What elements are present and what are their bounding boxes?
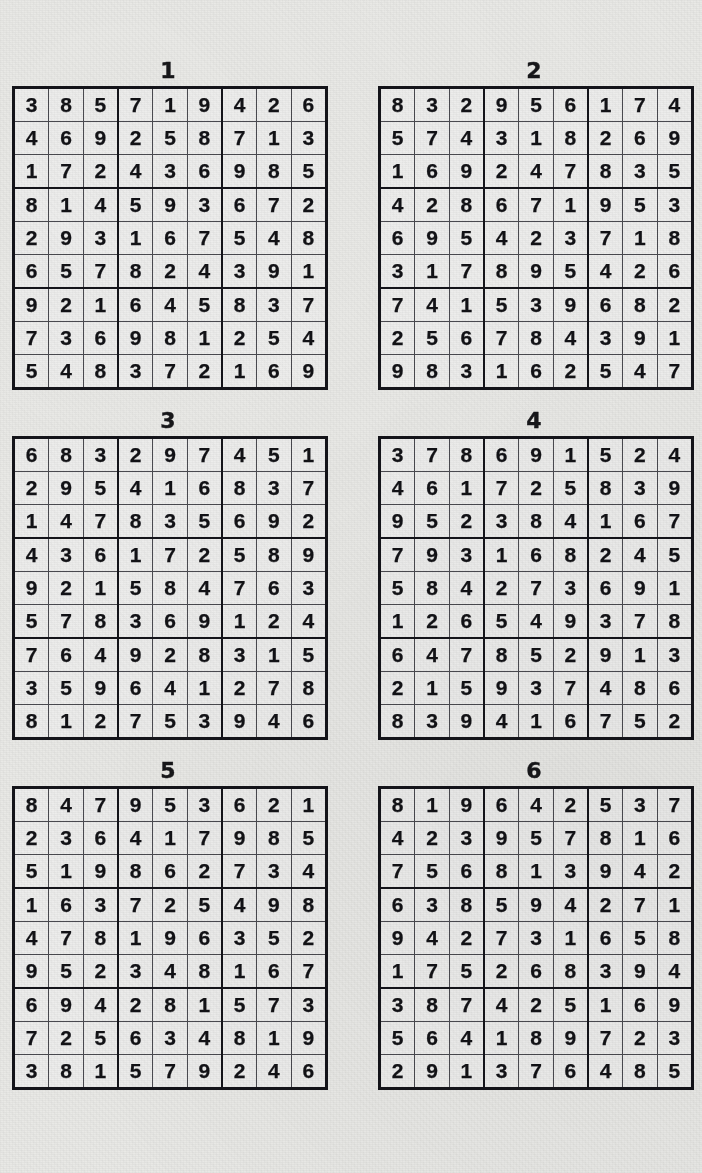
sudoku-cell[interactable]: 2 <box>623 1022 657 1055</box>
sudoku-cell[interactable]: 1 <box>553 188 588 222</box>
sudoku-cell[interactable]: 1 <box>449 288 484 322</box>
sudoku-cell[interactable]: 9 <box>449 155 484 189</box>
sudoku-cell[interactable]: 7 <box>291 955 326 989</box>
sudoku-cell[interactable]: 5 <box>83 88 118 122</box>
sudoku-cell[interactable]: 9 <box>118 322 153 355</box>
sudoku-cell[interactable]: 7 <box>588 705 623 739</box>
sudoku-cell[interactable]: 2 <box>449 505 484 539</box>
sudoku-cell[interactable]: 4 <box>257 222 291 255</box>
sudoku-cell[interactable]: 8 <box>484 855 519 889</box>
sudoku-cell[interactable]: 2 <box>257 88 291 122</box>
sudoku-cell[interactable]: 9 <box>187 88 222 122</box>
sudoku-cell[interactable]: 3 <box>49 822 83 855</box>
sudoku-cell[interactable]: 4 <box>484 222 519 255</box>
sudoku-cell[interactable]: 6 <box>380 638 415 672</box>
sudoku-cell[interactable]: 2 <box>415 188 449 222</box>
sudoku-cell[interactable]: 5 <box>222 222 257 255</box>
sudoku-cell[interactable]: 5 <box>657 155 692 189</box>
sudoku-cell[interactable]: 2 <box>588 538 623 572</box>
sudoku-cell[interactable]: 2 <box>484 572 519 605</box>
sudoku-cell[interactable]: 1 <box>623 222 657 255</box>
sudoku-cell[interactable]: 6 <box>657 255 692 289</box>
sudoku-cell[interactable]: 8 <box>49 1055 83 1089</box>
sudoku-cell[interactable]: 4 <box>49 505 83 539</box>
sudoku-cell[interactable]: 6 <box>623 988 657 1022</box>
sudoku-cell[interactable]: 3 <box>380 438 415 472</box>
sudoku-cell[interactable]: 4 <box>415 638 449 672</box>
sudoku-cell[interactable]: 8 <box>257 538 291 572</box>
sudoku-cell[interactable]: 6 <box>484 788 519 822</box>
sudoku-cell[interactable]: 7 <box>83 788 118 822</box>
sudoku-cell[interactable]: 1 <box>484 355 519 389</box>
sudoku-cell[interactable]: 5 <box>484 605 519 639</box>
sudoku-cell[interactable]: 4 <box>588 1055 623 1089</box>
sudoku-cell[interactable]: 1 <box>257 122 291 155</box>
sudoku-cell[interactable]: 7 <box>553 155 588 189</box>
sudoku-cell[interactable]: 7 <box>14 1022 49 1055</box>
sudoku-cell[interactable]: 1 <box>588 988 623 1022</box>
sudoku-cell[interactable]: 2 <box>449 922 484 955</box>
sudoku-cell[interactable]: 8 <box>153 572 187 605</box>
sudoku-cell[interactable]: 3 <box>588 955 623 989</box>
sudoku-cell[interactable]: 8 <box>14 788 49 822</box>
sudoku-cell[interactable]: 2 <box>380 1055 415 1089</box>
sudoku-cell[interactable]: 7 <box>187 222 222 255</box>
sudoku-cell[interactable]: 4 <box>380 472 415 505</box>
sudoku-cell[interactable]: 5 <box>83 1022 118 1055</box>
sudoku-cell[interactable]: 7 <box>449 255 484 289</box>
sudoku-cell[interactable]: 9 <box>588 188 623 222</box>
sudoku-cell[interactable]: 1 <box>291 438 326 472</box>
sudoku-cell[interactable]: 2 <box>222 672 257 705</box>
sudoku-cell[interactable]: 5 <box>291 822 326 855</box>
sudoku-cell[interactable]: 2 <box>49 1022 83 1055</box>
sudoku-cell[interactable]: 9 <box>222 155 257 189</box>
sudoku-cell[interactable]: 3 <box>519 288 553 322</box>
sudoku-cell[interactable]: 7 <box>484 472 519 505</box>
sudoku-cell[interactable]: 7 <box>415 438 449 472</box>
sudoku-cell[interactable]: 5 <box>415 855 449 889</box>
sudoku-cell[interactable]: 8 <box>519 505 553 539</box>
sudoku-cell[interactable]: 4 <box>14 122 49 155</box>
sudoku-cell[interactable]: 7 <box>519 572 553 605</box>
sudoku-cell[interactable]: 6 <box>14 988 49 1022</box>
sudoku-cell[interactable]: 1 <box>83 288 118 322</box>
sudoku-cell[interactable]: 1 <box>153 88 187 122</box>
sudoku-cell[interactable]: 4 <box>484 705 519 739</box>
sudoku-cell[interactable]: 6 <box>153 222 187 255</box>
sudoku-cell[interactable]: 7 <box>291 472 326 505</box>
sudoku-cell[interactable]: 9 <box>83 855 118 889</box>
sudoku-cell[interactable]: 3 <box>118 605 153 639</box>
sudoku-cell[interactable]: 3 <box>14 88 49 122</box>
sudoku-cell[interactable]: 5 <box>49 955 83 989</box>
sudoku-cell[interactable]: 3 <box>519 922 553 955</box>
sudoku-cell[interactable]: 7 <box>118 88 153 122</box>
sudoku-cell[interactable]: 8 <box>380 788 415 822</box>
sudoku-cell[interactable]: 8 <box>553 538 588 572</box>
sudoku-cell[interactable]: 6 <box>484 438 519 472</box>
sudoku-cell[interactable]: 2 <box>14 472 49 505</box>
sudoku-cell[interactable]: 1 <box>118 222 153 255</box>
sudoku-cell[interactable]: 4 <box>623 538 657 572</box>
sudoku-cell[interactable]: 4 <box>449 1022 484 1055</box>
sudoku-cell[interactable]: 3 <box>484 505 519 539</box>
sudoku-cell[interactable]: 3 <box>187 188 222 222</box>
sudoku-cell[interactable]: 8 <box>657 222 692 255</box>
sudoku-cell[interactable]: 3 <box>484 1055 519 1089</box>
sudoku-cell[interactable]: 3 <box>553 222 588 255</box>
sudoku-cell[interactable]: 8 <box>257 155 291 189</box>
sudoku-cell[interactable]: 7 <box>415 122 449 155</box>
sudoku-cell[interactable]: 1 <box>83 1055 118 1089</box>
sudoku-cell[interactable]: 8 <box>484 255 519 289</box>
sudoku-cell[interactable]: 1 <box>484 1022 519 1055</box>
sudoku-cell[interactable]: 6 <box>222 505 257 539</box>
sudoku-cell[interactable]: 7 <box>187 438 222 472</box>
sudoku-cell[interactable]: 7 <box>588 1022 623 1055</box>
sudoku-cell[interactable]: 6 <box>380 888 415 922</box>
sudoku-cell[interactable]: 8 <box>187 955 222 989</box>
sudoku-cell[interactable]: 5 <box>14 605 49 639</box>
sudoku-cell[interactable]: 9 <box>623 322 657 355</box>
sudoku-cell[interactable]: 8 <box>222 1022 257 1055</box>
sudoku-cell[interactable]: 6 <box>484 188 519 222</box>
sudoku-cell[interactable]: 2 <box>83 705 118 739</box>
sudoku-cell[interactable]: 1 <box>222 355 257 389</box>
